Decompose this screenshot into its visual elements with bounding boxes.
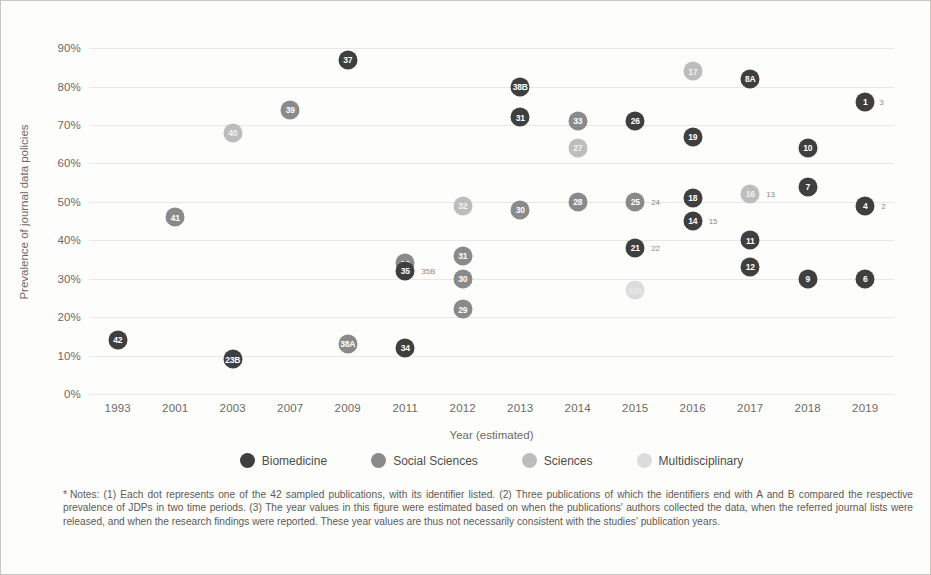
- legend-label: Multidisciplinary: [659, 454, 744, 468]
- figure-container: Prevalence of journal data policies 0%10…: [0, 0, 931, 575]
- gridline: [89, 279, 894, 280]
- x-axis-tick-label: 2018: [795, 402, 821, 414]
- data-point-label: 3: [879, 98, 883, 107]
- y-axis-tick-label: 50%: [57, 196, 81, 208]
- legend-item[interactable]: Sciences: [522, 453, 593, 468]
- data-point[interactable]: 39: [281, 100, 300, 119]
- data-point-label: 13: [766, 190, 775, 199]
- gridline: [89, 317, 894, 318]
- data-point[interactable]: 23B: [223, 350, 242, 369]
- x-axis-tick-label: 2016: [680, 402, 706, 414]
- legend-swatch-bio-icon: [240, 453, 255, 468]
- data-point[interactable]: 12: [741, 258, 760, 277]
- data-point[interactable]: 11: [741, 231, 760, 250]
- data-point[interactable]: 16: [741, 185, 760, 204]
- scatter-plot-area: 0%10%20%30%40%50%60%70%80%90% 1993200120…: [89, 29, 894, 394]
- data-point[interactable]: 21: [626, 239, 645, 258]
- chart-legend: BiomedicineSocial SciencesSciencesMultid…: [89, 453, 894, 468]
- x-axis-tick-label: 2012: [450, 402, 476, 414]
- legend-swatch-mul-icon: [637, 453, 652, 468]
- x-axis-tick-label: 1993: [105, 402, 131, 414]
- gridline: [89, 202, 894, 203]
- data-point[interactable]: 34: [396, 338, 415, 357]
- x-axis-tick-label: 2001: [162, 402, 188, 414]
- data-point[interactable]: 19: [683, 127, 702, 146]
- data-point[interactable]: 8A: [741, 69, 760, 88]
- y-axis-tick-label: 0%: [64, 388, 81, 400]
- data-point[interactable]: 38B: [511, 77, 530, 96]
- legend-item[interactable]: Multidisciplinary: [637, 453, 744, 468]
- data-point[interactable]: 40: [223, 123, 242, 142]
- gridline: [89, 240, 894, 241]
- data-point[interactable]: 10: [798, 139, 817, 158]
- gridline: [89, 125, 894, 126]
- data-point[interactable]: 1: [856, 93, 875, 112]
- data-point[interactable]: 38A: [338, 335, 357, 354]
- data-point[interactable]: 31: [453, 246, 472, 265]
- y-axis-tick-label: 90%: [57, 42, 81, 54]
- data-point[interactable]: 4: [856, 196, 875, 215]
- gridline: [89, 163, 894, 164]
- x-axis-tick-label: 2017: [737, 402, 763, 414]
- x-axis-tick-label: 2003: [220, 402, 246, 414]
- data-point[interactable]: 9: [798, 269, 817, 288]
- data-point[interactable]: 28: [568, 192, 587, 211]
- x-axis-tick-label: 2014: [565, 402, 591, 414]
- data-point-label: 2: [881, 201, 885, 210]
- data-point[interactable]: 33: [568, 112, 587, 131]
- notes-marker: *: [63, 489, 67, 500]
- legend-label: Social Sciences: [393, 454, 478, 468]
- gridline: [89, 48, 894, 49]
- data-point[interactable]: 14: [683, 212, 702, 231]
- data-point[interactable]: 29: [453, 300, 472, 319]
- x-axis-tick-label: 2007: [277, 402, 303, 414]
- gridline: [89, 356, 894, 357]
- y-axis-tick-label: 10%: [57, 350, 81, 362]
- y-axis-tick-label: 60%: [57, 157, 81, 169]
- data-point[interactable]: 17: [683, 62, 702, 81]
- data-point-label: 24: [651, 197, 660, 206]
- y-axis-title-label: Prevalence of journal data policies: [18, 124, 30, 299]
- x-axis-tick-label: 2019: [852, 402, 878, 414]
- data-point[interactable]: 6: [856, 269, 875, 288]
- data-point[interactable]: 32: [453, 196, 472, 215]
- data-point[interactable]: 37: [338, 50, 357, 69]
- data-point-label: 22: [651, 244, 660, 253]
- y-axis-tick-label: 70%: [57, 119, 81, 131]
- y-axis-tick-label: 40%: [57, 234, 81, 246]
- legend-swatch-soc-icon: [371, 453, 386, 468]
- figure-notes: *Notes: (1) Each dot represents one of t…: [63, 488, 913, 528]
- data-point[interactable]: 30: [453, 269, 472, 288]
- x-axis-tick-label: 2009: [335, 402, 361, 414]
- legend-swatch-sci-icon: [522, 453, 537, 468]
- data-point-label: 35B: [421, 267, 435, 276]
- y-axis-tick-label: 30%: [57, 273, 81, 285]
- x-axis-tick-label: 2015: [622, 402, 648, 414]
- data-point[interactable]: 25: [626, 192, 645, 211]
- data-point[interactable]: 26: [626, 112, 645, 131]
- gridline: [89, 87, 894, 88]
- legend-item[interactable]: Social Sciences: [371, 453, 478, 468]
- data-point[interactable]: 18: [683, 189, 702, 208]
- legend-label: Biomedicine: [262, 454, 327, 468]
- gridline: [89, 394, 894, 395]
- y-axis-title: Prevalence of journal data policies: [15, 29, 33, 394]
- legend-item[interactable]: Biomedicine: [240, 453, 327, 468]
- data-point[interactable]: 27: [568, 139, 587, 158]
- data-point[interactable]: 30: [511, 200, 530, 219]
- x-axis-title: Year (estimated): [89, 429, 894, 441]
- data-point[interactable]: 42: [108, 331, 127, 350]
- y-axis-tick-label: 20%: [57, 311, 81, 323]
- data-point[interactable]: 31: [511, 108, 530, 127]
- y-axis-tick-label: 80%: [57, 81, 81, 93]
- legend-label: Sciences: [544, 454, 593, 468]
- notes-text: Notes: (1) Each dot represents one of th…: [63, 489, 913, 527]
- data-point[interactable]: 41: [166, 208, 185, 227]
- data-point[interactable]: 7: [798, 177, 817, 196]
- x-axis-tick-label: 2011: [392, 402, 418, 414]
- x-axis-tick-label: 2013: [507, 402, 533, 414]
- data-point-label: 15: [709, 217, 718, 226]
- data-point[interactable]: 35: [396, 262, 415, 281]
- data-point[interactable]: 23A: [626, 281, 645, 300]
